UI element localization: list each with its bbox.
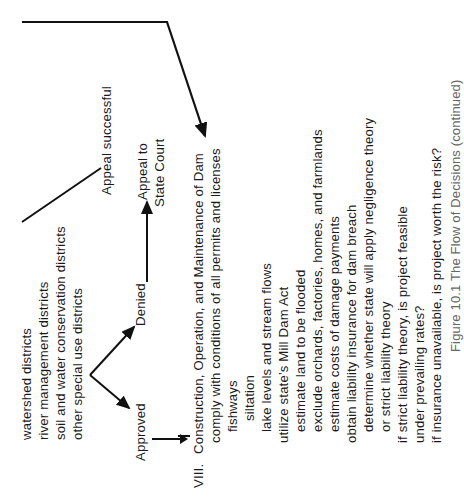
approved-down-arrow-icon xyxy=(150,431,190,447)
section-numeral: VIII. xyxy=(190,464,207,488)
item-lake-levels: lake levels and stream flows xyxy=(258,263,275,432)
item-comply: comply with conditions of all permits an… xyxy=(207,148,224,443)
item-exclude: exclude orchards, factories, homes, and … xyxy=(309,129,326,432)
approved-label: Approved xyxy=(132,403,149,461)
item-estimate-land: estimate land to be flooded xyxy=(292,270,309,432)
section-title: Construction, Operation, and Maintenance… xyxy=(190,153,207,454)
item-siltation: siltation xyxy=(241,375,258,421)
district-soil-water: soil and water conservation districts xyxy=(52,226,69,440)
item-estimate-costs: estimate costs of damage payments xyxy=(326,216,343,432)
appeal-successful-label: Appeal successful xyxy=(98,86,115,195)
item-mill-dam-act: utilize state’s Mill Dam Act xyxy=(275,287,292,443)
approved-arrow xyxy=(90,375,129,408)
item-if-strict: if strict liability theory, is project f… xyxy=(394,206,411,443)
item-fishways: fishways xyxy=(224,380,241,432)
district-watershed: watershed districts xyxy=(18,328,35,440)
denied-label: Denied xyxy=(132,283,149,326)
appeal-to-label: Appeal to xyxy=(134,143,151,200)
item-prevailing-rates: under prevailing rates? xyxy=(411,305,428,443)
item-insurance-unavailable: if insurance unavailable, is project wor… xyxy=(428,148,445,443)
state-court-label: State Court xyxy=(151,139,168,207)
figure-caption: Figure 10.1 The Flow of Decisions (conti… xyxy=(447,80,464,352)
denied-arrow xyxy=(90,327,134,375)
district-river-management: river management districts xyxy=(35,281,52,440)
item-liability-insurance: obtain liability insurance for dam breac… xyxy=(343,204,360,443)
item-negligence: determine whether state will apply negli… xyxy=(360,118,377,432)
item-strict-liability: or strict liability theory xyxy=(377,301,394,432)
district-special-use: other special use districts xyxy=(69,288,86,440)
appeal-successful-line xyxy=(22,168,101,222)
